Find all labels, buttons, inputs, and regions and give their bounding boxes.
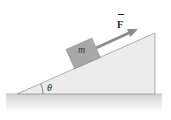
inclined-plane-diagram: m F θ <box>0 0 171 120</box>
ground <box>6 94 162 112</box>
block-mass-label: m <box>78 44 85 55</box>
angle-theta-label: θ <box>47 82 52 93</box>
force-arrow-shaft <box>96 33 130 49</box>
diagram-svg <box>0 0 171 120</box>
force-vector-mark <box>118 14 124 15</box>
force-label: F <box>117 19 123 30</box>
